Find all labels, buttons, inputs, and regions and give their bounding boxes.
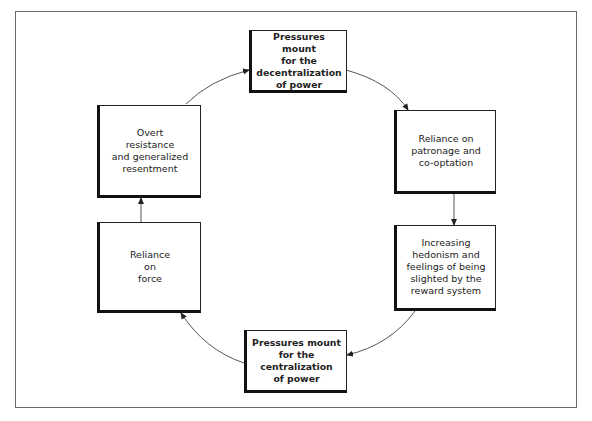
node-overt-resistance: Overt resistance and generalized resentm… — [97, 105, 201, 198]
node-patronage-reliance: Reliance on patronage and co-optation — [394, 110, 496, 194]
node-label: Reliance on patronage and co-optation — [411, 133, 481, 169]
arrow-top-to-right-top — [346, 70, 408, 110]
node-label: Reliance on force — [130, 249, 170, 285]
arrow-bottom-to-left-bottom — [181, 313, 244, 363]
arrow-right-bottom-to-bottom — [347, 311, 415, 355]
node-label: Overt resistance and generalized resentm… — [112, 127, 189, 175]
node-hedonism-slighted: Increasing hedonism and feelings of bein… — [394, 225, 496, 311]
node-label: Pressures mount for the decentralization… — [256, 31, 342, 91]
node-decentralization-pressure: Pressures mount for the decentralization… — [249, 30, 347, 93]
arrow-left-top-to-top — [186, 70, 249, 104]
node-force-reliance: Reliance on force — [97, 222, 201, 313]
node-label: Increasing hedonism and feelings of bein… — [406, 237, 485, 297]
node-label: Pressures mount for the centralization o… — [252, 337, 341, 385]
node-centralization-pressure: Pressures mount for the centralization o… — [244, 330, 347, 393]
